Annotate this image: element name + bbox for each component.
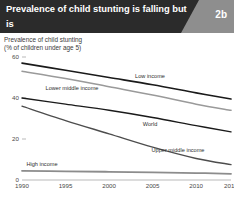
x-axis-labels: 199019952000200520102014 xyxy=(15,182,234,189)
line-chart-svg: 0204060 Low incomeLower middle incomeWor… xyxy=(0,50,234,201)
series-labels-group: Low incomeLower middle incomeWorldUpper … xyxy=(26,73,204,167)
x-tick-label: 2014 xyxy=(224,182,234,189)
figure-title-line2: close to 40 percent in low-income countr… xyxy=(6,31,192,33)
chart-subtitle: Prevalence of child stunting (% of child… xyxy=(4,36,164,51)
y-axis-labels: 0204060 xyxy=(12,53,19,183)
x-tick-label: 2010 xyxy=(189,182,203,189)
figure-title-line1: Prevalence of child stunting is falling … xyxy=(6,3,187,29)
series-line xyxy=(22,98,231,132)
figure-2b: Prevalence of child stunting is falling … xyxy=(0,0,234,201)
x-tick-label: 2000 xyxy=(102,182,116,189)
series-line xyxy=(22,171,231,174)
figure-number-badge: 2b xyxy=(215,9,227,20)
series-label: Lower middle income xyxy=(46,85,99,91)
series-label: Low income xyxy=(135,73,165,79)
figure-title: Prevalence of child stunting is falling … xyxy=(6,2,192,33)
y-tick-label: 40 xyxy=(12,94,19,101)
series-label: High income xyxy=(26,161,57,167)
series-line xyxy=(22,63,231,99)
series-label: Upper middle income xyxy=(152,147,205,153)
series-line xyxy=(22,106,231,164)
series-label: World xyxy=(143,121,158,127)
header-banner: Prevalence of child stunting is falling … xyxy=(0,0,234,33)
data-series-group xyxy=(22,63,231,174)
x-tick-label: 1990 xyxy=(15,182,29,189)
y-tick-label: 60 xyxy=(12,53,19,60)
chart-plot-area: 0204060 Low incomeLower middle incomeWor… xyxy=(0,50,234,201)
series-line xyxy=(22,71,231,110)
x-tick-label: 1995 xyxy=(59,182,73,189)
chart-subtitle-line1: Prevalence of child stunting xyxy=(4,36,82,43)
x-tick-label: 2005 xyxy=(146,182,160,189)
y-tick-label: 20 xyxy=(12,135,19,142)
